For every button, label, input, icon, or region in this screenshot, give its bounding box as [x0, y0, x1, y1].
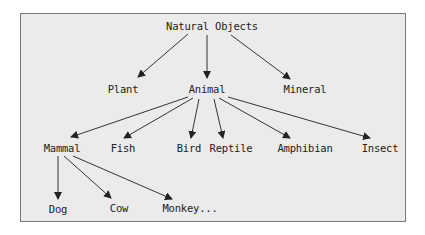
edge-animal-mammal	[71, 97, 188, 137]
edge-root-plant	[138, 34, 188, 77]
node-animal: Animal	[189, 83, 226, 95]
edge-animal-insect	[228, 97, 370, 138]
node-natural-objects: Natural Objects	[166, 20, 258, 32]
node-cow: Cow	[110, 202, 128, 214]
node-fish: Fish	[111, 142, 136, 154]
edge-animal-bird	[191, 99, 199, 138]
edge-animal-fish	[124, 98, 193, 138]
node-plant: Plant	[108, 83, 139, 95]
node-amphibian: Amphibian	[277, 142, 332, 154]
edge-root-mineral	[231, 35, 290, 79]
edge-animal-amphibian	[219, 98, 290, 138]
node-bird: Bird	[177, 142, 202, 154]
tree-edges	[0, 0, 425, 235]
node-mineral: Mineral	[284, 83, 327, 95]
node-mammal: Mammal	[44, 142, 81, 154]
node-monkey: Monkey...	[162, 202, 217, 214]
node-reptile: Reptile	[210, 142, 253, 154]
edge-animal-reptile	[214, 99, 223, 138]
node-dog: Dog	[49, 203, 67, 215]
node-insect: Insect	[362, 142, 399, 154]
